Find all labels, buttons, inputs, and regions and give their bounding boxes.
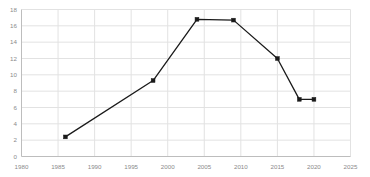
data-point-marker xyxy=(297,97,301,101)
data-point-marker xyxy=(151,79,155,83)
x-tick-label: 2020 xyxy=(307,163,321,170)
y-tick-label: 10 xyxy=(10,71,17,78)
y-tick-label: 18 xyxy=(10,6,17,13)
y-tick-label: 8 xyxy=(14,87,18,94)
chart-background xyxy=(0,0,370,177)
x-tick-label: 2005 xyxy=(197,163,211,170)
y-tick-label: 14 xyxy=(10,38,17,45)
y-tick-label: 0 xyxy=(14,153,18,160)
x-tick-label: 1990 xyxy=(88,163,102,170)
data-point-marker xyxy=(275,57,279,61)
x-tick-label: 1980 xyxy=(15,163,29,170)
y-tick-label: 16 xyxy=(10,22,17,29)
data-point-marker xyxy=(232,18,236,22)
x-tick-label: 2025 xyxy=(344,163,358,170)
chart-canvas: 024681012141618 198019851990199520002005… xyxy=(0,0,370,177)
y-tick-label: 2 xyxy=(14,136,18,143)
data-point-marker xyxy=(195,17,199,21)
x-tick-label: 2015 xyxy=(271,163,285,170)
y-tick-label: 12 xyxy=(10,55,17,62)
x-tick-label: 1985 xyxy=(51,163,65,170)
y-tick-label: 4 xyxy=(14,120,18,127)
data-point-marker xyxy=(312,97,316,101)
x-tick-label: 2000 xyxy=(161,163,175,170)
y-tick-label: 6 xyxy=(14,104,18,111)
x-tick-label: 1995 xyxy=(124,163,138,170)
x-tick-label: 2010 xyxy=(234,163,248,170)
data-point-marker xyxy=(63,135,67,139)
line-chart: 024681012141618 198019851990199520002005… xyxy=(0,0,370,177)
